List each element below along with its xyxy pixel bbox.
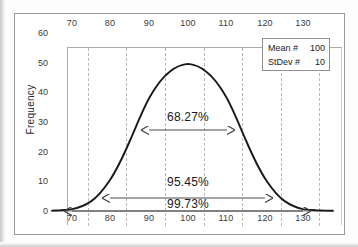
chart-legend: Mean # 100 StDev # 10: [262, 38, 330, 71]
y-tick-30: 30: [38, 117, 48, 127]
x-top-tick-120: 120: [257, 18, 273, 28]
x-bottom-tick-130: 130: [295, 213, 311, 223]
x-axis-top-labels: 70 80 90 100 110 120 130: [0, 18, 358, 32]
annotation-68-label: 68.27%: [167, 110, 209, 124]
x-bottom-tick-70: 70: [67, 213, 77, 223]
gridline-110: [242, 48, 243, 226]
annotation-99-label: 99.73%: [167, 197, 209, 211]
x-top-tick-130: 130: [295, 18, 311, 28]
gridline-70: [88, 48, 89, 226]
legend-value-mean: 100: [304, 41, 325, 55]
annotation-95-label: 95.45%: [167, 175, 209, 189]
normal-distribution-chart: Frequency 60 50 40 30 20 10 0 70 80 90 1…: [0, 0, 358, 247]
x-top-tick-80: 80: [105, 18, 115, 28]
y-tick-40: 40: [38, 87, 48, 97]
legend-row-stdev: StDev # 10: [268, 55, 325, 69]
x-top-tick-110: 110: [219, 18, 234, 28]
y-tick-20: 20: [38, 147, 48, 157]
gridline-80: [126, 48, 127, 226]
y-tick-50: 50: [38, 58, 48, 68]
x-top-tick-70: 70: [67, 18, 77, 28]
x-bottom-tick-100: 100: [180, 213, 196, 223]
x-bottom-tick-80: 80: [105, 213, 115, 223]
page-edge-shading-bottom: [0, 242, 358, 247]
page-edge-shading-left: [0, 0, 6, 247]
x-axis-bottom-labels: 70 80 90 100 110 120 130: [0, 213, 358, 227]
gridline-120: [281, 48, 282, 226]
x-top-tick-100: 100: [180, 18, 196, 28]
x-top-tick-90: 90: [144, 18, 154, 28]
gridline-130: [319, 48, 320, 226]
y-axis-tick-labels: 60 50 40 30 20 10 0: [26, 33, 48, 211]
gridline-90: [165, 48, 166, 226]
legend-label-stdev: StDev #: [268, 55, 300, 69]
legend-value-stdev: 10: [309, 55, 325, 69]
x-bottom-tick-90: 90: [144, 213, 154, 223]
y-tick-10: 10: [38, 176, 48, 186]
legend-row-mean: Mean # 100: [268, 41, 325, 55]
x-bottom-tick-110: 110: [219, 213, 234, 223]
legend-label-mean: Mean #: [268, 41, 298, 55]
x-bottom-tick-120: 120: [257, 213, 273, 223]
